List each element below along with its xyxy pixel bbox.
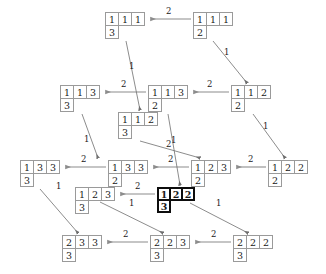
tableau-cell: 1 [219,12,233,26]
edge-n10-n9-label: 2 [248,155,253,164]
tableau-cell: 3 [217,160,231,174]
edge-n5-n10 [253,114,285,158]
edge-n12-n11-label: 2 [135,182,140,191]
tableau-cell: 3 [33,160,47,174]
tableau-1-2-2-over-2: 1222 [268,160,307,186]
tableau-cell: 2 [148,98,162,112]
edge-n5-n4-label: 2 [207,80,212,89]
tableau-row-2: 2 [191,173,230,186]
tableau-cell: 2 [281,160,295,174]
tableau-row-1: 112 [118,112,157,125]
edge-n11-n14-label: 1 [129,199,134,208]
edge-n1-n6 [126,41,140,110]
tableau-row-1: 133 [20,160,59,173]
edge-n12-n15-label: 1 [216,199,221,208]
tableau-cell: 3 [60,98,74,112]
tableau-cell: 1 [231,85,245,99]
tableau-cell: 3 [174,85,188,99]
tableau-1-1-1-over-3: 1113 [105,12,144,38]
tableau-cell: 2 [246,235,260,249]
tableau-cell: 3 [101,187,115,201]
tableau-cell: 1 [131,112,145,126]
tableau-cell: 2 [62,235,76,249]
tableau-row-1: 123 [75,187,114,200]
tableau-row-2: 3 [150,248,189,261]
tableau-2-2-2-over-3: 2223 [233,235,272,261]
edge-n1-n6-label: 1 [129,62,134,71]
tableau-row-2: 3 [105,25,144,38]
tableau-cell: 1 [75,187,89,201]
tableau-cell: 3 [105,25,119,39]
tableau-cell: 1 [193,12,207,26]
tableau-row-1: 122 [157,187,193,199]
tableau-cell: 2 [204,160,218,174]
tableau-cell: 1 [244,85,258,99]
tableau-cell: 3 [233,248,247,262]
crystal-graph-figure: 1113111211331132112211231333133212321222… [0,0,326,274]
tableau-cell: 3 [157,199,171,213]
tableau-cell: 3 [134,160,148,174]
edge-n7-n13 [40,189,78,233]
tableau-cell: 3 [62,248,76,262]
tableau-row-2: 2 [193,25,232,38]
tableau-2-3-3-over-3: 2333 [62,235,101,261]
tableau-cell: 2 [233,235,247,249]
tableau-row-2: 2 [148,98,187,111]
tableau-row-1: 133 [108,160,147,173]
tableau-cell: 1 [118,12,132,26]
tableau-cell: 3 [118,125,132,139]
tableau-1-3-3-over-2: 1332 [108,160,147,186]
tableau-cell: 1 [206,12,220,26]
tableau-1-1-3-over-3: 1133 [60,85,99,111]
tableau-cell: 3 [20,173,34,187]
edge-n15-n14-label: 2 [211,230,216,239]
tableau-row-2: 2 [231,98,270,111]
tableau-1-1-2-over-2: 1122 [231,85,270,111]
tableau-cell: 3 [75,235,89,249]
edge-n2-n5 [213,41,247,83]
tableau-row-2: 3 [62,248,101,261]
tableau-cell: 1 [268,160,282,174]
tableau-cell: 2 [257,85,271,99]
tableau-cell: 1 [118,112,132,126]
edge-n14-n13-label: 2 [123,230,128,239]
tableau-cell: 2 [150,235,164,249]
tableau-cell: 2 [191,173,205,187]
tableau-row-2: 3 [233,248,272,261]
edge-n2-n5-label: 1 [224,48,229,57]
tableau-row-1: 122 [268,160,307,173]
edge-n4-n3-label: 2 [121,80,126,89]
tableau-row-1: 222 [233,235,272,248]
tableau-cell: 3 [150,248,164,262]
tableau-cell: 3 [75,200,89,214]
tableau-cell: 3 [88,235,102,249]
tableau-1-2-2-over-3: 1223 [157,187,193,211]
tableau-row-1: 233 [62,235,101,248]
tableau-cell: 2 [231,98,245,112]
tableau-row-1: 223 [150,235,189,248]
tableau-cell: 1 [131,12,145,26]
tableau-cell: 3 [176,235,190,249]
tableau-cell: 3 [46,160,60,174]
tableau-row-1: 113 [60,85,99,98]
tableau-cell: 2 [88,187,102,201]
edge-n8-n7-label: 2 [81,155,86,164]
tableau-cell: 1 [161,85,175,99]
edge-n2-n1-label: 2 [166,7,171,16]
tableau-cell: 1 [73,85,87,99]
tableau-row-2: 3 [20,173,59,186]
tableau-cell: 1 [20,160,34,174]
edge-n4-n12-label: 1 [171,136,176,145]
tableau-row-2: 3 [60,98,99,111]
tableau-cell: 1 [148,85,162,99]
tableau-cell: 2 [259,235,273,249]
tableau-cell: 1 [105,12,119,26]
tableau-row-2: 2 [108,173,147,186]
tableau-cell: 1 [60,85,74,99]
tableau-cell: 2 [144,112,158,126]
tableau-1-2-3-over-3: 1233 [75,187,114,213]
edge-layer [0,0,326,274]
tableau-row-1: 112 [231,85,270,98]
edge-n6-n9-label: 2 [166,140,171,149]
tableau-cell: 3 [86,85,100,99]
